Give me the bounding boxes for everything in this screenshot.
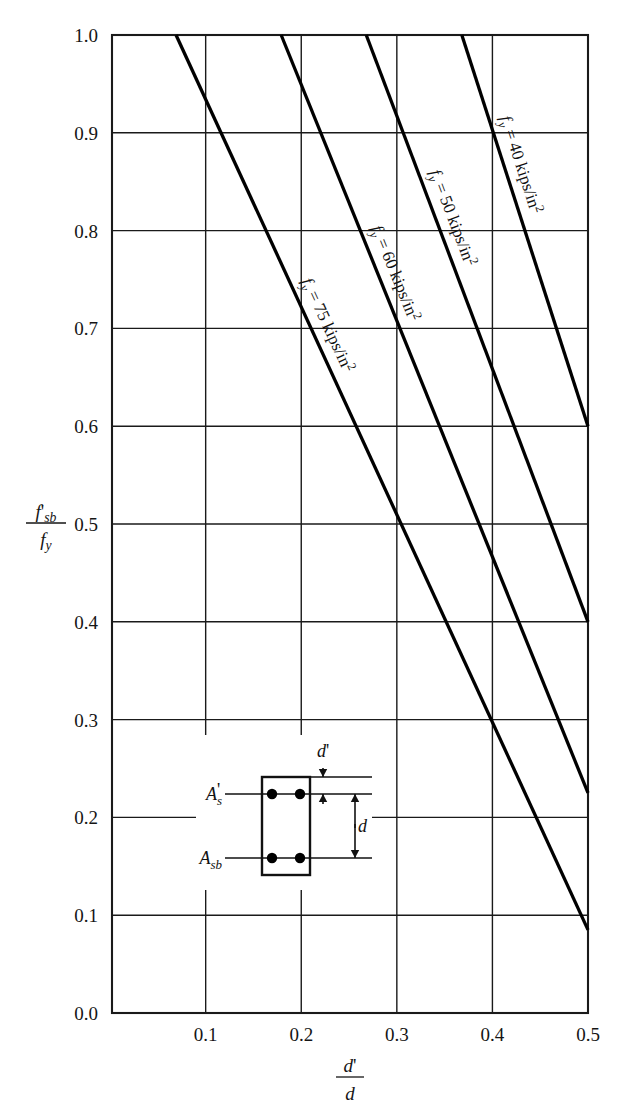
chart-svg: fy = 75 kips/in2fy = 60 kips/in2fy = 50 … xyxy=(0,0,624,1117)
x-axis-numerator: d' xyxy=(344,1055,357,1076)
y-tick-0.7: 0.7 xyxy=(74,318,98,339)
y-tick-0.2: 0.2 xyxy=(74,807,98,828)
label-top-steel: As' xyxy=(205,780,222,808)
y-tick-0.3: 0.3 xyxy=(74,710,98,731)
rebar-dot xyxy=(295,789,305,799)
x-axis-denominator: d xyxy=(345,1083,355,1104)
y-tick-0.8: 0.8 xyxy=(74,221,98,242)
y-tick-0.5: 0.5 xyxy=(74,514,98,535)
y-tick-0.4: 0.4 xyxy=(74,612,98,633)
x-tick-0.3: 0.3 xyxy=(385,1024,409,1045)
y-tick-0.9: 0.9 xyxy=(74,123,98,144)
label-dim-dprime: d' xyxy=(317,741,329,761)
x-tick-0.2: 0.2 xyxy=(289,1024,313,1045)
y-tick-1.0: 1.0 xyxy=(74,25,98,46)
x-tick-0.4: 0.4 xyxy=(481,1024,505,1045)
y-tick-0.1: 0.1 xyxy=(74,905,98,926)
rebar-dot xyxy=(267,789,277,799)
x-tick-0.1: 0.1 xyxy=(194,1024,218,1045)
chart-container: fy = 75 kips/in2fy = 60 kips/in2fy = 50 … xyxy=(0,0,624,1117)
rebar-dot xyxy=(295,853,305,863)
y-tick-0.6: 0.6 xyxy=(74,416,98,437)
rebar-dot xyxy=(267,853,277,863)
y-tick-0.0: 0.0 xyxy=(74,1003,98,1024)
label-dim-d: d xyxy=(358,816,368,836)
x-tick-0.5: 0.5 xyxy=(576,1024,600,1045)
